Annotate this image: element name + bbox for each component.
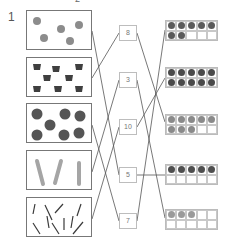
pins-icon — [27, 198, 91, 236]
counter-dot-icon — [208, 79, 215, 86]
number-box-3[interactable]: 3 — [119, 72, 137, 88]
exercise-number: 1 — [8, 10, 15, 24]
frame-cell — [207, 175, 217, 185]
counter-dot-icon — [168, 116, 175, 123]
frame-cell — [197, 165, 207, 175]
frame-cell — [207, 210, 217, 220]
counter-dot-icon — [198, 22, 205, 29]
frame-cell — [186, 165, 196, 175]
counter-dot-icon — [188, 79, 195, 86]
frame-cell — [176, 220, 186, 230]
frame-cell — [176, 165, 186, 175]
counter-dot-icon — [178, 79, 185, 86]
frame-cell — [166, 31, 176, 41]
frame-cell — [176, 68, 186, 78]
frame-cell — [197, 210, 207, 220]
frame-cell — [186, 220, 196, 230]
picture-box-candles[interactable] — [26, 150, 92, 190]
frame-cell — [207, 220, 217, 230]
number-box-10[interactable]: 10 — [119, 119, 137, 135]
frame-cell — [186, 175, 196, 185]
frame-cell — [197, 78, 207, 88]
frame-cell — [166, 165, 176, 175]
counter-dot-icon — [178, 22, 185, 29]
counter-dot-icon — [168, 126, 175, 133]
frame-cell — [176, 210, 186, 220]
frame-cell — [197, 175, 207, 185]
frame-cell — [186, 68, 196, 78]
frame-cell — [197, 31, 207, 41]
ten-frame-7[interactable] — [165, 20, 218, 41]
picture-box-pins[interactable] — [26, 197, 92, 237]
counter-dot-icon — [208, 22, 215, 29]
frame-cell — [176, 78, 186, 88]
line-balls-to-5 — [92, 31, 119, 175]
line-cups-to-8 — [92, 33, 119, 78]
counter-dot-icon — [178, 69, 185, 76]
line-10-to-frame10 — [137, 78, 165, 127]
frame-cell — [207, 78, 217, 88]
counter-dot-icon — [198, 79, 205, 86]
frame-cell — [186, 31, 196, 41]
frame-cell — [207, 31, 217, 41]
counter-dot-icon — [208, 116, 215, 123]
frame-cell — [207, 165, 217, 175]
line-7-to-frame7 — [137, 30, 165, 221]
number-box-8[interactable]: 8 — [119, 25, 137, 41]
counter-dot-icon — [188, 116, 195, 123]
frame-cell — [197, 220, 207, 230]
line-8-to-frame8 — [137, 33, 165, 122]
counter-dot-icon — [168, 79, 175, 86]
ten-frame-8[interactable] — [165, 114, 218, 135]
frame-cell — [166, 68, 176, 78]
line-apples-to-7 — [92, 125, 119, 221]
counter-dot-icon — [188, 22, 195, 29]
counter-dot-icon — [168, 22, 175, 29]
ten-frame-10[interactable] — [165, 67, 218, 88]
frame-cell — [186, 210, 196, 220]
counter-dot-icon — [208, 166, 215, 173]
counter-dot-icon — [178, 166, 185, 173]
page-mark: 2 — [75, 0, 80, 4]
line-candles-to-3 — [92, 80, 119, 172]
counter-dot-icon — [188, 69, 195, 76]
counter-dot-icon — [188, 126, 195, 133]
counter-dot-icon — [188, 211, 195, 218]
picture-box-cups[interactable] — [26, 57, 92, 97]
frame-cell — [176, 175, 186, 185]
counter-dot-icon — [168, 32, 175, 39]
frame-cell — [207, 68, 217, 78]
frame-cell — [186, 115, 196, 125]
number-box-7[interactable]: 7 — [119, 213, 137, 229]
frame-cell — [186, 125, 196, 135]
line-pins-to-10 — [92, 127, 119, 219]
picture-box-balls[interactable] — [26, 10, 92, 50]
frame-cell — [207, 115, 217, 125]
frame-cell — [166, 125, 176, 135]
frame-cell — [197, 21, 207, 31]
counter-dot-icon — [198, 166, 205, 173]
frame-cell — [166, 210, 176, 220]
frame-cell — [197, 115, 207, 125]
line-3-to-frame3 — [137, 80, 165, 218]
counter-dot-icon — [188, 166, 195, 173]
ten-frame-3[interactable] — [165, 209, 218, 230]
counter-dot-icon — [168, 211, 175, 218]
frame-cell — [207, 125, 217, 135]
frame-cell — [166, 220, 176, 230]
frame-cell — [166, 115, 176, 125]
frame-cell — [176, 125, 186, 135]
counter-dot-icon — [178, 126, 185, 133]
ten-frame-5[interactable] — [165, 164, 218, 185]
frame-cell — [166, 21, 176, 31]
frame-cell — [186, 78, 196, 88]
number-box-5[interactable]: 5 — [119, 167, 137, 183]
counter-dot-icon — [168, 69, 175, 76]
frame-cell — [176, 31, 186, 41]
candles-icon — [27, 151, 91, 189]
frame-cell — [197, 125, 207, 135]
counter-dot-icon — [178, 211, 185, 218]
picture-box-apples[interactable] — [26, 103, 92, 143]
frame-cell — [176, 115, 186, 125]
counter-dot-icon — [178, 32, 185, 39]
